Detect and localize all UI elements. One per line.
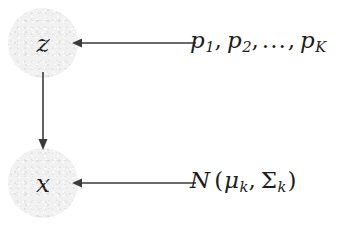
gaussian-distribution-symbol: N bbox=[190, 167, 210, 193]
mixing-ellipsis: ... bbox=[261, 27, 288, 53]
gaussian-close-paren: ) bbox=[286, 167, 297, 193]
label-mixing-weights: p1,p2,...,pK bbox=[190, 29, 326, 55]
mixing-symbol-k: p bbox=[300, 27, 315, 53]
mixing-comma-3: , bbox=[288, 27, 297, 53]
arrow-z-to-x bbox=[28, 72, 58, 154]
gaussian-open-paren: ( bbox=[213, 167, 224, 193]
diagram-canvas: z x p1,p2,...,pK N(μk,Σk) bbox=[0, 0, 364, 229]
arrow-gaussian-to-x bbox=[66, 168, 196, 198]
gaussian-comma: , bbox=[248, 167, 257, 193]
arrow-mixing-weights-to-z bbox=[66, 28, 196, 58]
node-z[interactable]: z bbox=[8, 8, 78, 78]
mixing-sub-1: 1 bbox=[205, 38, 215, 55]
mixing-comma-2: , bbox=[252, 27, 261, 53]
mixing-sub-2: 2 bbox=[242, 38, 252, 55]
node-x[interactable]: x bbox=[8, 148, 78, 218]
gaussian-mean-symbol: μ bbox=[224, 167, 239, 193]
mixing-sub-k: K bbox=[315, 38, 327, 55]
node-z-label: z bbox=[36, 31, 49, 56]
gaussian-cov-symbol: Σ bbox=[261, 167, 277, 193]
label-gaussian: N(μk,Σk) bbox=[190, 169, 297, 195]
mixing-comma-1: , bbox=[215, 27, 224, 53]
mixing-symbol-1: p bbox=[190, 27, 205, 53]
mixing-symbol-2: p bbox=[227, 27, 242, 53]
node-x-label: x bbox=[36, 171, 50, 196]
